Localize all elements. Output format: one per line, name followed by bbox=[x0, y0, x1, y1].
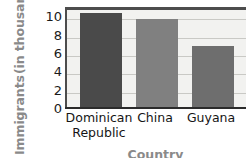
bar bbox=[192, 46, 234, 108]
y-tick-label: 2 bbox=[40, 83, 62, 96]
plot-area bbox=[65, 7, 246, 108]
x-axis-title: Country bbox=[65, 148, 246, 158]
x-category-label: Guyana bbox=[174, 111, 246, 126]
bar bbox=[80, 13, 122, 108]
bars-layer bbox=[67, 10, 246, 108]
y-tick-label: 10 bbox=[40, 10, 62, 23]
y-axis-title: Immigrants (in thousands) bbox=[0, 12, 38, 116]
y-tick-label: 8 bbox=[40, 28, 62, 41]
x-axis-line bbox=[65, 107, 246, 109]
y-axis-tick-labels: 0246810 bbox=[40, 7, 62, 108]
bar-chart-figure: Immigrants (in thousands) 0246810 Domini… bbox=[0, 0, 246, 158]
x-category-label-line: Guyana bbox=[174, 111, 246, 126]
y-tick-label: 4 bbox=[40, 65, 62, 78]
bar bbox=[136, 19, 178, 108]
x-category-label-line: Republic bbox=[62, 126, 136, 141]
y-tick-label: 6 bbox=[40, 46, 62, 59]
x-axis-category-labels: DominicanRepublicChinaGuyana bbox=[65, 111, 246, 141]
y-tick-label: 0 bbox=[40, 102, 62, 115]
y-axis-title-line-2: (in thousands) bbox=[12, 0, 27, 74]
y-axis-title-line-1: Immigrants bbox=[12, 75, 27, 155]
x-axis-title-text: Country bbox=[65, 148, 246, 158]
